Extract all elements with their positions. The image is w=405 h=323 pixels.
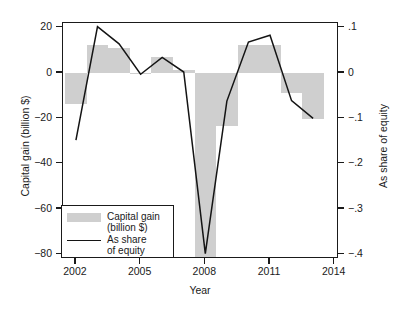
x-tick-label-4: 2014 [311, 266, 357, 277]
y-tick-label-left-1: 0 [46, 67, 52, 78]
y-tick-label-right-0: .1 [348, 21, 357, 32]
y-tick-right-1 [338, 71, 344, 72]
y-tick-right-5 [338, 253, 344, 254]
y-tick-label-right-4: −.3 [348, 203, 363, 214]
x-axis-title: Year [62, 284, 338, 296]
y-tick-label-right-3: −.2 [348, 157, 363, 168]
legend-line-icon [67, 236, 101, 245]
chart-figure: Capital gain (billion $) As share of equ… [0, 0, 405, 323]
legend-swatch-icon [67, 213, 101, 222]
x-tick-0 [74, 258, 75, 264]
legend-item-as-share: As share of equity [67, 234, 146, 256]
x-tick-2 [204, 258, 205, 264]
y-tick-label-left-2: −20 [34, 112, 52, 123]
x-tick-label-1: 2005 [117, 266, 163, 277]
x-tick-label-0: 2002 [52, 266, 98, 277]
x-tick-label-2: 2008 [181, 266, 227, 277]
y-tick-right-3 [338, 162, 344, 163]
legend-label-capital-gain: Capital gain (billion $) [107, 211, 160, 233]
y-tick-label-right-5: −.4 [348, 248, 363, 259]
y-axis-left-title: Capital gain (billion $) [19, 76, 31, 216]
y-tick-label-right-1: 0 [348, 67, 354, 78]
x-tick-label-3: 2011 [246, 266, 292, 277]
y-tick-label-left-4: −60 [34, 203, 52, 214]
y-tick-label-left-5: −80 [34, 248, 52, 259]
y-tick-right-2 [338, 117, 344, 118]
y-tick-right-0 [338, 26, 344, 27]
x-tick-1 [139, 258, 140, 264]
y-tick-right-4 [338, 207, 344, 208]
y-axis-right-title: As share of equity [377, 76, 389, 216]
x-tick-3 [268, 258, 269, 264]
x-tick-4 [333, 258, 334, 264]
legend-label-as-share: As share of equity [107, 234, 146, 256]
y-tick-label-left-0: 20 [40, 21, 52, 32]
y-tick-label-right-2: −.1 [348, 112, 363, 123]
legend-item-capital-gain: Capital gain (billion $) [67, 211, 160, 233]
chart-legend: Capital gain (billion $) As share of equ… [61, 205, 174, 258]
y-tick-label-left-3: −40 [34, 157, 52, 168]
